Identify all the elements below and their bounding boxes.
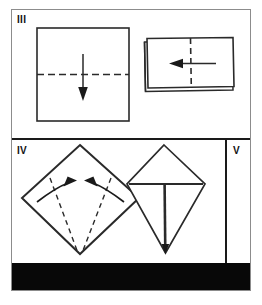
figure-frame: III xyxy=(11,9,251,291)
bottom-black-bar xyxy=(12,263,250,290)
panel-step-four: IV xyxy=(12,140,227,263)
step-label-five: V xyxy=(233,146,240,156)
folded-spine-edge xyxy=(145,42,146,92)
figure-page: III xyxy=(0,0,262,305)
diagram-folded-rectangle-with-vertical-fold xyxy=(12,10,227,140)
panel-step-five: V xyxy=(227,140,250,263)
diagram-kite-shape-result xyxy=(12,140,227,263)
panel-step-three: III xyxy=(12,10,250,140)
kite-vertical-crease xyxy=(165,184,166,251)
